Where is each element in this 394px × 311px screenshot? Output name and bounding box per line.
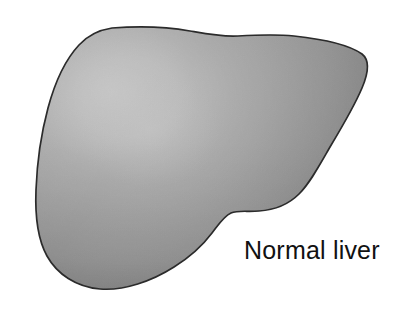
liver-caption-label: Normal liver xyxy=(244,238,380,263)
liver-illustration xyxy=(0,0,394,311)
liver-grain-texture xyxy=(0,0,394,311)
liver-figure: Normal liver xyxy=(0,0,394,311)
liver-body xyxy=(0,0,394,311)
